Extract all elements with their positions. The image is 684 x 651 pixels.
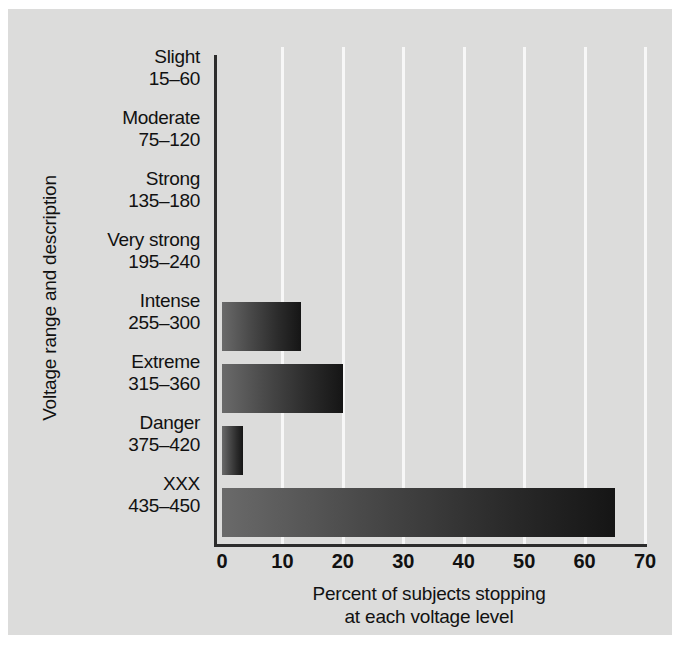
x-axis-line — [214, 544, 647, 547]
gridline-70 — [644, 47, 647, 544]
x-axis-title-line2: at each voltage level — [209, 605, 649, 628]
category-label-column: Slight 15–60 Moderate 75–120 Strong 135–… — [38, 46, 200, 536]
category-name: Moderate — [38, 107, 200, 129]
category-range: 315–360 — [38, 373, 200, 395]
category-range: 135–180 — [38, 190, 200, 212]
gridline-30 — [402, 47, 405, 544]
x-axis-tick-labels: 010203040506070 — [209, 550, 669, 578]
category-range: 375–420 — [38, 434, 200, 456]
category-range: 15–60 — [38, 68, 200, 90]
category-name: Slight — [38, 46, 200, 68]
gridline-50 — [523, 47, 526, 544]
category-range: 195–240 — [38, 251, 200, 273]
category-label-slight: Slight 15–60 — [38, 46, 200, 91]
x-tick-40: 40 — [453, 550, 475, 573]
category-label-moderate: Moderate 75–120 — [38, 107, 200, 152]
category-name: XXX — [38, 473, 200, 495]
bar-xxx — [222, 488, 615, 537]
bar-extreme — [222, 364, 343, 413]
category-name: Danger — [38, 412, 200, 434]
bar-danger — [222, 426, 243, 475]
category-label-danger: Danger 375–420 — [38, 412, 200, 457]
chart-figure: Voltage range and description Slight 15–… — [8, 9, 672, 635]
category-range: 255–300 — [38, 312, 200, 334]
category-label-strong: Strong 135–180 — [38, 168, 200, 213]
gridline-60 — [584, 47, 587, 544]
gridline-40 — [463, 47, 466, 544]
x-tick-50: 50 — [513, 550, 535, 573]
bar-intense — [222, 302, 301, 351]
category-label-intense: Intense 255–300 — [38, 290, 200, 335]
plot-area — [209, 47, 645, 544]
x-tick-20: 20 — [332, 550, 354, 573]
x-tick-70: 70 — [634, 550, 656, 573]
plot-inner — [217, 47, 645, 544]
category-name: Extreme — [38, 351, 200, 373]
category-label-extreme: Extreme 315–360 — [38, 351, 200, 396]
category-name: Very strong — [38, 229, 200, 251]
x-tick-0: 0 — [216, 550, 227, 573]
category-range: 75–120 — [38, 129, 200, 151]
y-axis-line — [214, 55, 217, 544]
x-axis-title-line1: Percent of subjects stopping — [209, 582, 649, 605]
x-tick-10: 10 — [271, 550, 293, 573]
x-axis-title: Percent of subjects stopping at each vol… — [209, 582, 649, 628]
x-tick-30: 30 — [392, 550, 414, 573]
x-tick-60: 60 — [573, 550, 595, 573]
category-range: 435–450 — [38, 495, 200, 517]
gridline-20 — [342, 47, 345, 544]
category-label-xxx: XXX 435–450 — [38, 473, 200, 518]
category-name: Strong — [38, 168, 200, 190]
category-label-very-strong: Very strong 195–240 — [38, 229, 200, 274]
gridline-10 — [281, 47, 284, 544]
category-name: Intense — [38, 290, 200, 312]
